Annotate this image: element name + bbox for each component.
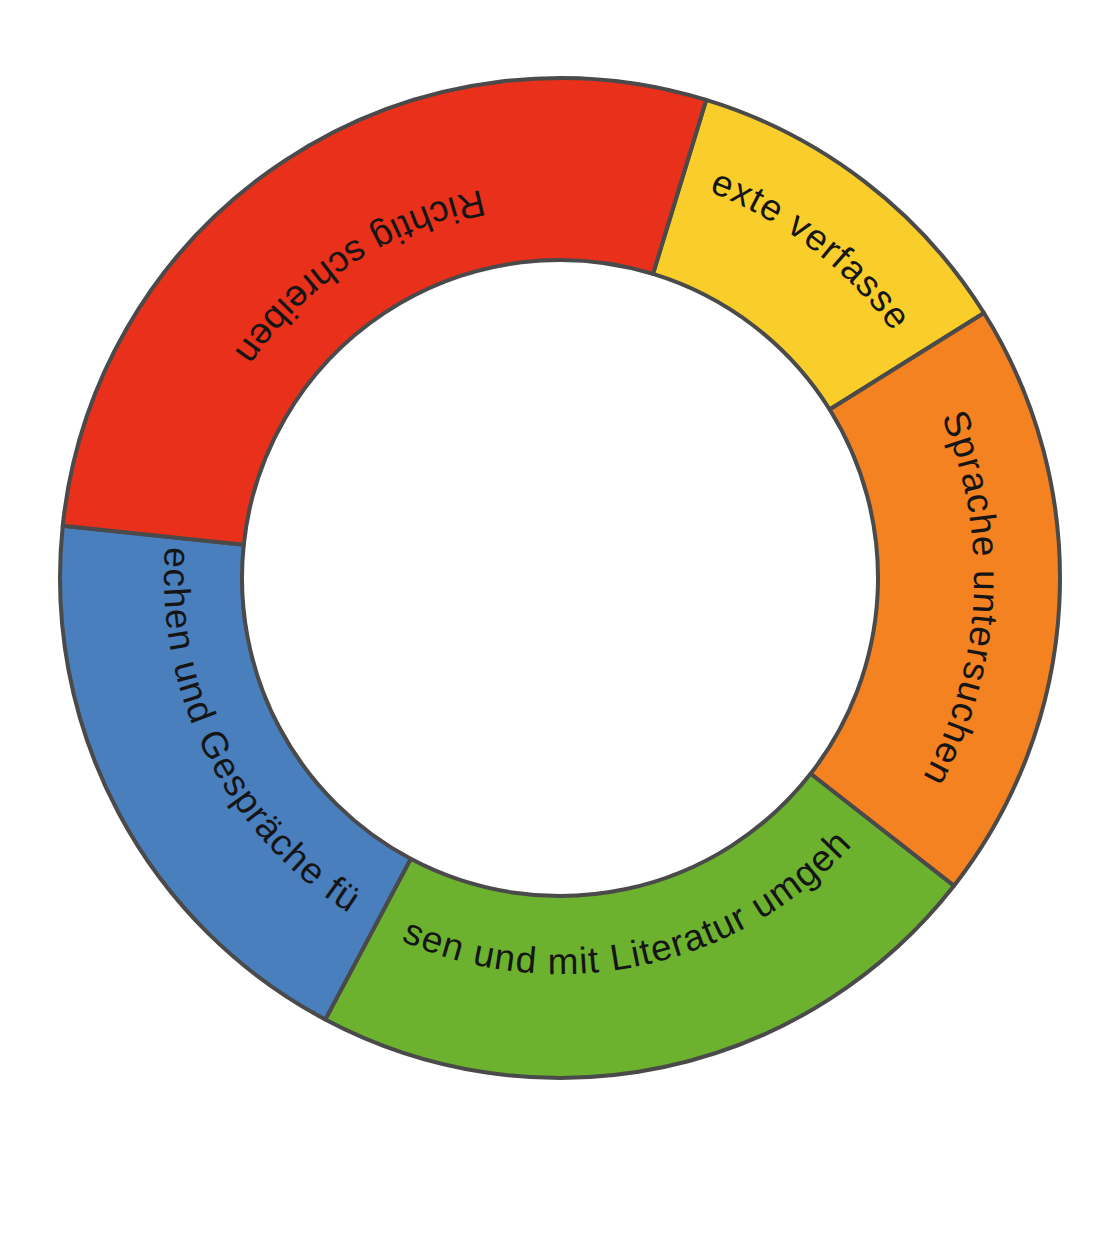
donut-segments bbox=[60, 78, 1060, 1078]
competency-wheel-donut-chart: Texte verfassenSprache untersuchenLesen … bbox=[0, 0, 1103, 1235]
diagram-canvas: Texte verfassenSprache untersuchenLesen … bbox=[0, 0, 1103, 1235]
donut-segment[interactable] bbox=[63, 78, 706, 545]
donut-segment[interactable] bbox=[811, 313, 1060, 886]
